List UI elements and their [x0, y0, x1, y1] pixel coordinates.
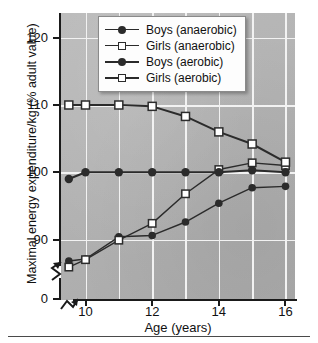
y-tick-mark [53, 104, 60, 106]
footer-divider [8, 336, 310, 337]
y-tick-mark [53, 298, 60, 300]
series-line [69, 163, 286, 267]
x-tick-label: 16 [270, 305, 300, 318]
legend-circle-marker-icon [118, 26, 126, 34]
data-point-marker-circle [182, 218, 190, 226]
data-point-marker-square [82, 256, 89, 263]
x-tick-label: 14 [204, 305, 234, 318]
series-girls-anaerobic [65, 159, 289, 271]
data-point-marker-circle [248, 184, 256, 192]
data-point-marker-circle [181, 168, 189, 176]
data-point-marker-square [282, 158, 290, 166]
data-point-marker-square [115, 101, 123, 109]
y-tick-mark [53, 171, 60, 173]
y-tick-mark [53, 37, 60, 39]
data-point-marker-square [115, 236, 122, 243]
y-tick-mark [53, 239, 60, 241]
legend-item: Boys (aerobic) [105, 54, 237, 70]
legend-swatch [105, 24, 139, 36]
legend-item-label: Girls (aerobic) [146, 72, 221, 84]
data-point-marker-square [65, 101, 73, 109]
x-axis-title: Age (years) [61, 320, 295, 335]
legend-swatch [105, 72, 139, 84]
data-point-marker-circle [215, 168, 223, 176]
legend-item: Girls (anaerobic) [105, 38, 237, 54]
data-point-marker-circle [282, 183, 290, 191]
figure-container: 120110100900 10121416 Maximal energy exp… [0, 0, 318, 343]
data-point-marker-square [248, 140, 256, 148]
data-point-marker-circle [215, 199, 223, 207]
data-point-marker-square [182, 190, 189, 197]
data-point-marker-circle [281, 168, 289, 176]
legend-swatch [105, 56, 139, 68]
data-point-marker-square [182, 112, 190, 120]
legend-item-label: Girls (anaerobic) [146, 40, 235, 52]
data-point-marker-circle [148, 168, 156, 176]
y-axis-title: Maximal energy expenditure/kg (% adult v… [25, 34, 39, 284]
legend-item-label: Boys (anaerobic) [146, 24, 237, 36]
data-point-marker-circle [81, 168, 89, 176]
legend-item-label: Boys (aerobic) [146, 56, 223, 68]
legend-circle-marker-icon [118, 58, 126, 66]
y-tick-label: 0 [8, 292, 48, 305]
data-point-marker-square [215, 128, 223, 136]
data-point-marker-square [65, 263, 72, 270]
legend-item: Boys (anaerobic) [105, 22, 237, 38]
x-tick-label: 10 [71, 305, 101, 318]
data-point-marker-square [148, 220, 155, 227]
data-point-marker-square [148, 102, 156, 110]
series-line [69, 105, 286, 162]
x-tick-label: 12 [137, 305, 167, 318]
data-point-marker-circle [148, 232, 156, 240]
legend-item: Girls (aerobic) [105, 70, 237, 86]
data-point-marker-square [82, 101, 90, 109]
data-point-marker-circle [65, 175, 73, 183]
legend-swatch [105, 40, 139, 52]
series-boys-aerobic [65, 166, 290, 183]
data-point-marker-circle [115, 168, 123, 176]
data-point-marker-circle [248, 166, 256, 174]
series-girls-aerobic [65, 101, 290, 166]
legend-square-marker-icon [118, 74, 126, 82]
data-point-marker-square [248, 159, 255, 166]
legend-square-marker-icon [118, 42, 126, 50]
chart-legend: Boys (anaerobic)Girls (anaerobic)Boys (a… [98, 16, 246, 92]
